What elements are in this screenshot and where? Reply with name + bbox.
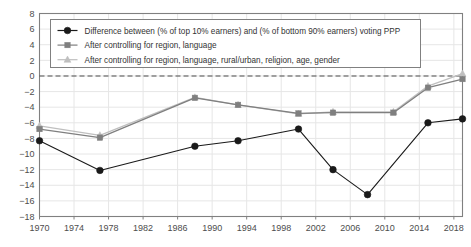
legend-label: After controlling for region, language, … [85,56,341,65]
data-point-square [425,85,430,90]
line-chart: 86420−2−4−6−8−10−12−14−16−18197019741978… [0,0,471,247]
y-axis-tick-label: 8 [29,9,34,19]
x-axis-tick-label: 1998 [271,223,291,233]
y-axis-tick-label: 0 [29,71,34,81]
x-axis-tick-label: 2002 [306,223,326,233]
data-point-circle [192,143,199,150]
x-axis-tick-label: 2014 [409,223,429,233]
data-point-square [235,102,240,107]
y-axis-tick-label: 4 [29,40,34,50]
x-axis-tick-label: 2018 [444,223,464,233]
x-axis-tick-label: 1986 [168,223,188,233]
y-axis-tick-label: −6 [24,118,34,128]
y-axis-tick-label: −10 [19,149,34,159]
y-axis-tick-label: −2 [24,87,34,97]
data-point-circle [235,137,242,144]
x-axis-tick-label: 2006 [340,223,360,233]
data-point-circle [425,120,432,127]
legend: Difference between (% of top 10% earners… [51,20,421,68]
y-axis-tick-label: −18 [19,212,34,222]
x-axis-tick-label: 1982 [133,223,153,233]
data-point-circle [459,116,466,123]
data-point-square [460,76,465,81]
data-point-square [296,111,301,116]
y-axis-tick-label: −14 [19,180,34,190]
x-axis-tick-label: 1978 [99,223,119,233]
x-axis-tick-label: 2010 [375,223,395,233]
data-point-circle [330,166,337,173]
y-axis-tick-label: −8 [24,134,34,144]
y-axis-tick-label: −12 [19,165,34,175]
data-point-square [391,110,396,115]
legend-entry-3: After controlling for region, language, … [58,56,341,65]
data-point-square [330,110,335,115]
data-point-square [97,135,102,140]
y-axis-tick-label: 6 [29,24,34,34]
legend-label: After controlling for region, language [85,41,217,50]
data-point-square [65,42,70,47]
y-axis-tick-label: −16 [19,196,34,206]
data-point-circle [364,191,371,198]
data-point-circle [36,137,43,144]
chart-container: 86420−2−4−6−8−10−12−14−16−18197019741978… [0,0,471,247]
data-point-circle [295,126,302,133]
x-axis-tick-label: 1994 [237,223,257,233]
x-axis-tick-label: 1974 [64,223,84,233]
x-axis-tick-label: 1970 [29,223,49,233]
legend-entry-1: Difference between (% of top 10% earners… [58,27,401,36]
y-axis-tick-label: −4 [24,102,34,112]
data-point-circle [97,167,104,174]
data-point-circle [64,27,71,34]
data-point-square [192,95,197,100]
data-point-square [37,126,42,131]
legend-label: Difference between (% of top 10% earners… [85,27,401,36]
y-axis-tick-label: 2 [29,56,34,66]
x-axis-tick-label: 1990 [202,223,222,233]
